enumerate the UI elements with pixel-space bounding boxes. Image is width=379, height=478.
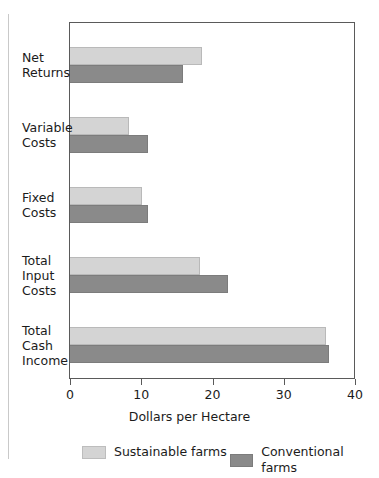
bar-net-returns-conventional-farms <box>70 65 183 83</box>
bar-total-cash-income-conventional-farms <box>70 345 329 363</box>
category-label-line: Total <box>22 253 68 268</box>
x-tick-mark-20 <box>213 379 214 385</box>
category-label-line: Variable <box>22 120 68 135</box>
bar-variable-costs-conventional-farms <box>70 135 148 153</box>
x-tick-mark-10 <box>141 379 142 385</box>
x-tick-label-40: 40 <box>340 387 370 402</box>
bar-total-cash-income-sustainable-farms <box>70 327 326 345</box>
bar-total-input-costs-conventional-farms <box>70 275 228 293</box>
x-tick-mark-0 <box>70 379 71 385</box>
category-label-total-cash-income: TotalCashIncome <box>22 323 68 368</box>
bar-fixed-costs-sustainable-farms <box>70 187 142 205</box>
x-tick-mark-40 <box>355 379 356 385</box>
x-tick-label-20: 20 <box>198 387 228 402</box>
bar-variable-costs-sustainable-farms <box>70 117 129 135</box>
legend-item-conventional-farms: Conventional farms <box>230 444 379 476</box>
category-label-fixed-costs: FixedCosts <box>22 190 68 220</box>
category-label-line: Total <box>22 323 68 338</box>
bar-total-input-costs-sustainable-farms <box>70 257 200 275</box>
category-label-line: Net <box>22 50 68 65</box>
legend-swatch-icon-conventional <box>230 454 253 467</box>
x-tick-mark-30 <box>284 379 285 385</box>
category-label-line: Costs <box>22 135 68 150</box>
legend-swatch-icon-sustainable <box>82 446 106 459</box>
category-label-line: Costs <box>22 205 68 220</box>
chart-legend: Sustainable farms Conventional farms <box>0 444 379 464</box>
bar-net-returns-sustainable-farms <box>70 47 202 65</box>
category-label-line: Fixed <box>22 190 68 205</box>
x-tick-label-0: 0 <box>55 387 85 402</box>
category-label-line: Input <box>22 268 68 283</box>
x-tick-label-30: 30 <box>269 387 299 402</box>
x-axis-title: Dollars per Hectare <box>0 409 379 424</box>
category-label-total-input-costs: TotalInputCosts <box>22 253 68 298</box>
x-tick-label-10: 10 <box>126 387 156 402</box>
category-axis-labels: NetReturnsVariableCostsFixedCostsTotalIn… <box>0 0 69 478</box>
legend-label-conventional: Conventional farms <box>261 444 379 476</box>
bar-chart-figure: NetReturnsVariableCostsFixedCostsTotalIn… <box>0 0 379 478</box>
plot-area <box>70 23 355 378</box>
category-label-variable-costs: VariableCosts <box>22 120 68 150</box>
category-label-line: Income <box>22 353 68 368</box>
category-label-line: Costs <box>22 283 68 298</box>
legend-item-sustainable-farms: Sustainable farms <box>82 444 227 460</box>
bar-fixed-costs-conventional-farms <box>70 205 148 223</box>
category-label-line: Returns <box>22 65 68 80</box>
category-label-net-returns: NetReturns <box>22 50 68 80</box>
category-label-line: Cash <box>22 338 68 353</box>
legend-label-sustainable: Sustainable farms <box>114 444 227 460</box>
